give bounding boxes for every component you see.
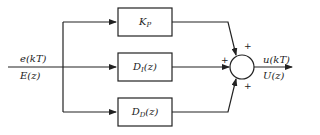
sum-sign-bottom: + bbox=[244, 82, 252, 91]
sum-sign-top: + bbox=[244, 42, 252, 51]
dd-to-sum bbox=[172, 79, 236, 112]
kp-to-sum bbox=[172, 22, 236, 55]
output-z-label: U(z) bbox=[263, 71, 285, 81]
summing-junction bbox=[230, 55, 254, 79]
output-time-label: u(kT) bbox=[263, 55, 290, 65]
block-integral-label: DI(z) bbox=[118, 62, 172, 74]
block-proportional-label: KP bbox=[118, 17, 172, 29]
sum-sign-left: + bbox=[221, 56, 229, 65]
input-time-label: e(kT) bbox=[20, 54, 46, 64]
input-z-label: E(z) bbox=[20, 71, 40, 81]
block-derivative-label: DD(z) bbox=[118, 107, 172, 119]
